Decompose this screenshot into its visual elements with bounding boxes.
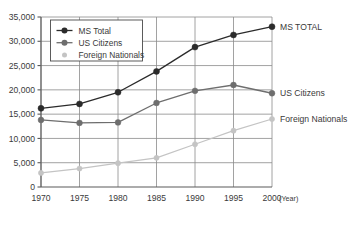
legend-label-2: Foreign Nationals <box>79 50 145 60</box>
series-end-label-1: US Citizens <box>280 88 325 98</box>
series-end-label-2: Foreign Nationals <box>280 114 347 124</box>
series-marker <box>269 116 274 121</box>
x-tick-label: 1985 <box>147 193 166 203</box>
series-marker <box>115 161 120 166</box>
y-tick-label: 5,000 <box>13 158 35 168</box>
x-tick-label: 1975 <box>70 193 89 203</box>
y-tick-label: 15,000 <box>9 109 36 119</box>
series-marker <box>192 44 198 50</box>
series-marker <box>231 82 237 88</box>
y-tick-label: 25,000 <box>9 61 36 71</box>
y-tick-label: 10,000 <box>9 134 36 144</box>
series-marker <box>231 32 237 38</box>
series-marker <box>77 120 83 126</box>
line-chart: 05,00010,00015,00020,00025,00030,00035,0… <box>0 0 361 233</box>
x-tick-label: 1980 <box>108 193 127 203</box>
series-marker <box>154 155 159 160</box>
series-marker <box>77 166 82 171</box>
legend-marker-1 <box>62 40 68 46</box>
series-marker <box>154 100 160 106</box>
x-axis-unit-label: (Year) <box>279 194 298 203</box>
series-marker <box>154 68 160 74</box>
series-marker <box>38 170 43 175</box>
series-marker <box>192 142 197 147</box>
x-tick-label: 1970 <box>31 193 50 203</box>
series-marker <box>77 101 83 107</box>
x-tick-label: 1990 <box>185 193 204 203</box>
legend-label-1: US Citizens <box>79 38 123 48</box>
y-tick-label: 35,000 <box>9 12 36 22</box>
series-marker <box>115 120 121 126</box>
x-tick-label: 1995 <box>224 193 243 203</box>
series-marker <box>115 89 121 95</box>
series-end-label-0: MS TOTAL <box>280 22 322 32</box>
y-tick-label: 20,000 <box>9 85 36 95</box>
series-marker <box>192 88 198 94</box>
chart-container: 05,00010,00015,00020,00025,00030,00035,0… <box>0 0 361 233</box>
series-marker <box>38 117 44 123</box>
legend-marker-0 <box>62 28 68 34</box>
legend-marker-2 <box>62 52 67 57</box>
series-marker <box>269 24 275 30</box>
legend-label-0: MS Total <box>79 26 112 36</box>
series-marker <box>231 128 236 133</box>
series-marker <box>38 105 44 111</box>
series-marker <box>269 90 275 96</box>
y-tick-label: 30,000 <box>9 36 36 46</box>
y-tick-label: 0 <box>30 182 35 192</box>
